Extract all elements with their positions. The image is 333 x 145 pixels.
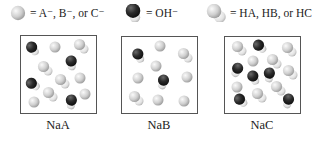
legend-item-anion: = A⁻, B⁻, or C⁻ <box>10 4 105 22</box>
panel-naa <box>20 35 97 114</box>
hydroxide-molecule-icon <box>124 4 142 22</box>
legend-item-acid: = HA, HB, or HC <box>206 4 312 22</box>
panel-label-naa: NaA <box>18 118 98 133</box>
particles-nac <box>225 37 302 115</box>
legend-text-anion: = A⁻, B⁻, or C⁻ <box>30 6 105 20</box>
particles-naa <box>21 36 98 115</box>
panel-nab <box>121 36 198 114</box>
particles-nab <box>122 37 199 115</box>
panel-nac <box>224 36 301 114</box>
anion-sphere-icon <box>10 5 26 21</box>
panel-label-nab: NaB <box>119 118 199 133</box>
acid-molecule-icon <box>206 4 226 22</box>
legend-text-hydroxide: = OH⁻ <box>146 6 178 20</box>
legend: = A⁻, B⁻, or C⁻ = OH⁻ = HA, HB, or HC <box>0 0 333 26</box>
legend-item-hydroxide: = OH⁻ <box>124 4 178 22</box>
legend-text-acid: = HA, HB, or HC <box>230 7 312 19</box>
panel-label-nac: NaC <box>222 118 302 133</box>
